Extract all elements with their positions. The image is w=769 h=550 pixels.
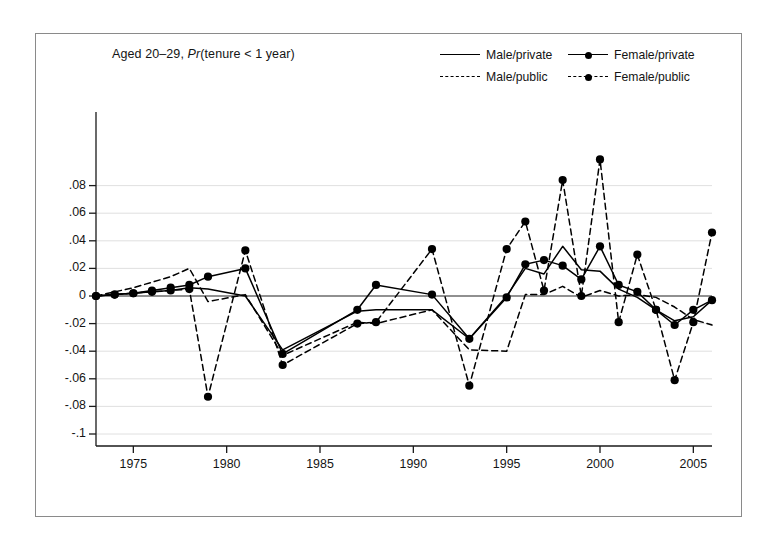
x-tick-label: 2005 bbox=[663, 457, 723, 471]
chart-title-suffix: (tenure < 1 year) bbox=[200, 47, 294, 61]
legend-swatch-dashed-marker-icon bbox=[568, 71, 608, 83]
figure-container: Aged 20–29, Pr(tenure < 1 year) Male/pri… bbox=[0, 0, 769, 550]
y-tick-label: -.06 bbox=[34, 371, 86, 385]
y-tick-label: .02 bbox=[34, 260, 86, 274]
chart-legend: Male/private Female/private Male/public … bbox=[440, 44, 730, 88]
legend-item-female-public: Female/public bbox=[568, 66, 730, 88]
y-tick-label: .08 bbox=[34, 178, 86, 192]
x-tick-label: 1975 bbox=[103, 457, 163, 471]
legend-swatch-solid-line-icon bbox=[440, 49, 480, 61]
x-tick-label: 1995 bbox=[477, 457, 537, 471]
y-tick-label: .04 bbox=[34, 233, 86, 247]
legend-item-female-private: Female/private bbox=[568, 44, 730, 66]
chart-title: Aged 20–29, Pr(tenure < 1 year) bbox=[112, 47, 295, 61]
x-tick-label: 1985 bbox=[290, 457, 350, 471]
y-tick-label: -.02 bbox=[34, 316, 86, 330]
x-tick-label: 1980 bbox=[197, 457, 257, 471]
legend-label-male-private: Male/private bbox=[486, 49, 552, 61]
legend-label-female-public: Female/public bbox=[614, 71, 690, 83]
chart-title-italic: Pr bbox=[188, 47, 201, 61]
legend-label-male-public: Male/public bbox=[486, 71, 548, 83]
legend-label-female-private: Female/private bbox=[614, 49, 695, 61]
x-tick-label: 2000 bbox=[570, 457, 630, 471]
y-tick-label: -.08 bbox=[34, 398, 86, 412]
legend-item-male-public: Male/public bbox=[440, 66, 568, 88]
figure-frame bbox=[35, 33, 742, 517]
x-tick-label: 1990 bbox=[383, 457, 443, 471]
legend-swatch-dashed-line-icon bbox=[440, 71, 480, 83]
y-tick-label: 0 bbox=[34, 288, 86, 302]
y-tick-label: -.04 bbox=[34, 343, 86, 357]
chart-title-prefix: Aged 20–29, bbox=[112, 47, 188, 61]
y-tick-label: -.1 bbox=[34, 426, 86, 440]
legend-swatch-solid-marker-icon bbox=[568, 49, 608, 61]
legend-item-male-private: Male/private bbox=[440, 44, 568, 66]
y-tick-label: .06 bbox=[34, 205, 86, 219]
